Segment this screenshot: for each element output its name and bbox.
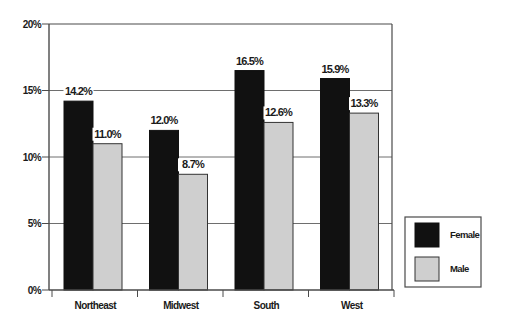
chart-canvas: 14.2%11.0%12.0%8.7%16.5%12.6%15.9%13.3% … [0, 0, 507, 328]
legend-label-male: Male [450, 263, 469, 274]
bar-male-west [350, 113, 379, 290]
bar-male-south [264, 122, 293, 290]
legend: FemaleMale [405, 217, 481, 287]
bar-female-midwest [150, 130, 179, 290]
bar-male-midwest [179, 174, 208, 290]
y-tick-label: 10% [23, 152, 42, 163]
y-tick-label: 20% [23, 19, 42, 30]
bar-chart: 14.2%11.0%12.0%8.7%16.5%12.6%15.9%13.3% … [0, 0, 507, 328]
y-tick-label: 5% [28, 218, 42, 229]
value-label: 8.7% [182, 158, 205, 170]
value-label: 12.0% [150, 114, 178, 126]
value-label: 15.9% [321, 63, 349, 75]
legend-label-female: Female [450, 229, 479, 240]
x-tick-label: Midwest [163, 300, 200, 311]
value-label: 11.0% [94, 128, 122, 140]
x-tick-label: South [254, 300, 280, 311]
legend-swatch-female [415, 223, 439, 247]
value-label: 12.6% [265, 106, 293, 118]
legend-swatch-male [415, 257, 439, 281]
bar-male-northeast [93, 144, 122, 290]
x-tick-label: West [341, 300, 364, 311]
bar-female-west [321, 79, 350, 290]
value-label: 14.2% [65, 85, 93, 97]
bar-female-northeast [64, 101, 93, 290]
y-tick-label: 15% [23, 85, 42, 96]
value-label: 13.3% [350, 97, 378, 109]
value-label: 16.5% [236, 55, 264, 67]
bars [64, 71, 379, 290]
y-tick-label: 0% [28, 285, 42, 296]
bar-female-south [235, 71, 264, 290]
x-tick-label: Northeast [75, 300, 118, 311]
